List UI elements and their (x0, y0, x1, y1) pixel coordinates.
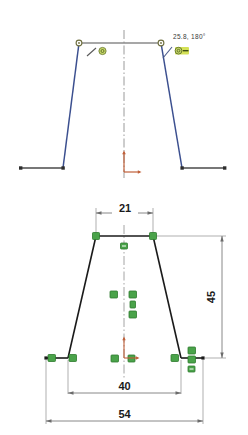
bottom-right-endpoint[interactable] (201, 356, 204, 359)
relation-marker-symmetric[interactable] (110, 291, 118, 298)
dimension-top-width[interactable]: 21 (96, 202, 153, 234)
dim-arrow-right (148, 211, 154, 214)
relation-marker-coincident[interactable] (93, 233, 100, 240)
relation-leader-line (163, 47, 172, 58)
top-right-endpoint-dot (160, 42, 162, 44)
bottom-right-vertex-point[interactable] (180, 166, 183, 169)
upper-view[interactable]: 25.8, 180° (19, 30, 226, 178)
relation-marker-coincident[interactable] (188, 356, 196, 363)
right-cursor-cluster[interactable] (163, 47, 189, 58)
left-leg-line[interactable] (68, 236, 96, 358)
relation-marker-coincident[interactable] (129, 311, 137, 318)
origin-y-arrow (122, 151, 126, 155)
right-leg-line[interactable] (153, 236, 181, 358)
origin-marker[interactable] (122, 151, 141, 174)
relation-marker-coincident[interactable] (69, 355, 77, 362)
origin-x-arrow (138, 170, 142, 174)
relation-marker-vertical[interactable] (130, 301, 136, 308)
origin-x-arrow (136, 356, 140, 359)
cursor-tooltip: 25.8, 180° (173, 33, 206, 40)
dim-arrow-right (198, 419, 204, 422)
left-leg-line[interactable] (63, 43, 79, 168)
coincident-relation-icon[interactable] (99, 47, 106, 54)
dim-arrow-left (96, 211, 102, 214)
relation-marker-coincident[interactable] (150, 233, 157, 240)
dimension-value[interactable]: 54 (118, 408, 131, 420)
dim-arrow-left (46, 419, 52, 422)
bottom-left-endpoint[interactable] (44, 356, 47, 359)
dimension-height[interactable]: 45 (155, 236, 226, 358)
dim-arrow-left (68, 391, 74, 394)
lower-view[interactable]: 21 45 40 (44, 202, 226, 424)
left-cursor-cluster[interactable] (87, 47, 106, 56)
bottom-left-endpoint[interactable] (19, 166, 22, 169)
bottom-left-vertex-point[interactable] (61, 166, 64, 169)
dimension-middle-width[interactable]: 40 (68, 360, 181, 395)
dimension-value[interactable]: 21 (119, 202, 131, 214)
relation-marker-coincident[interactable] (171, 355, 179, 362)
dim-arrow-right (176, 391, 182, 394)
origin-y-arrow (122, 337, 125, 341)
dim-arrow-bottom (220, 353, 223, 359)
line-tool-icon (87, 48, 96, 56)
relation-marker-coincident[interactable] (111, 355, 119, 362)
horizontal-relation-icon[interactable] (175, 47, 182, 54)
dimension-value[interactable]: 45 (205, 291, 217, 303)
relation-marker-symmetric[interactable] (129, 291, 137, 298)
cad-viewport[interactable]: 25.8, 180° (0, 0, 248, 435)
top-left-endpoint-dot (78, 42, 80, 44)
right-leg-line[interactable] (161, 43, 182, 168)
dim-arrow-top (220, 236, 223, 242)
relation-marker-coincident[interactable] (48, 355, 56, 362)
dimension-value[interactable]: 40 (118, 380, 130, 392)
sketch-canvas[interactable]: 25.8, 180° (0, 0, 248, 435)
bottom-right-endpoint[interactable] (223, 166, 226, 169)
relation-marker-coincident[interactable] (188, 347, 196, 354)
